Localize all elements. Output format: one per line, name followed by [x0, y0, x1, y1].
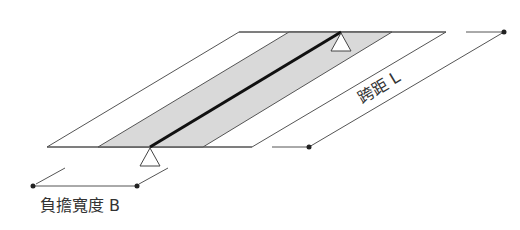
dimension-B [31, 168, 169, 189]
diagram-canvas: 負擔寬度 B 跨距 L [0, 0, 520, 230]
load-width-label: 負擔寬度 B [40, 192, 120, 216]
support-left-icon [140, 148, 160, 166]
